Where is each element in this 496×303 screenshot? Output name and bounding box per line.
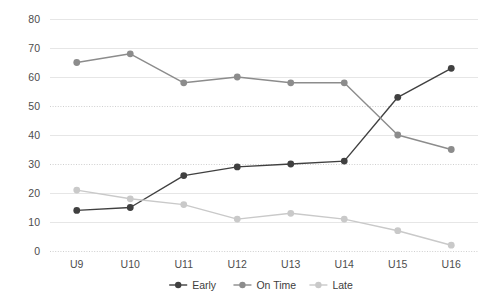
y-tick-label: 60: [28, 71, 40, 83]
x-tick-label: U12: [228, 258, 247, 270]
legend-item-late[interactable]: Late: [309, 279, 353, 291]
series-on-time: [73, 50, 454, 153]
legend-label: Late: [332, 279, 353, 291]
series-late: [73, 187, 454, 249]
y-tick-label: 70: [28, 42, 40, 54]
y-axis-labels: 01020304050607080: [28, 13, 40, 257]
data-point[interactable]: [448, 146, 455, 153]
x-tick-label: U13: [281, 258, 300, 270]
series-line: [77, 68, 452, 210]
x-tick-label: U11: [175, 258, 194, 270]
y-tick-label: 30: [28, 158, 40, 170]
data-point[interactable]: [341, 79, 348, 86]
x-tick-label: U15: [388, 258, 407, 270]
data-point[interactable]: [73, 187, 80, 194]
data-point[interactable]: [287, 161, 294, 168]
y-tick-label: 80: [28, 13, 40, 25]
x-tick-label: U14: [335, 258, 354, 270]
legend-marker-icon: [315, 282, 321, 288]
data-point[interactable]: [394, 227, 401, 234]
data-point[interactable]: [448, 242, 455, 249]
series-early: [73, 65, 454, 214]
y-tick-label: 0: [34, 245, 40, 257]
y-tick-label: 20: [28, 187, 40, 199]
data-point[interactable]: [394, 132, 401, 139]
y-tick-label: 50: [28, 100, 40, 112]
chart-canvas: 01020304050607080U9U10U11U12U13U14U15U16…: [0, 0, 496, 303]
legend-label: On Time: [256, 279, 296, 291]
data-point[interactable]: [287, 79, 294, 86]
x-axis-labels: U9U10U11U12U13U14U15U16: [70, 258, 461, 270]
data-point[interactable]: [448, 65, 455, 72]
data-point[interactable]: [180, 79, 187, 86]
data-point[interactable]: [234, 164, 241, 171]
data-point[interactable]: [180, 172, 187, 179]
x-tick-label: U16: [442, 258, 461, 270]
series-group: [73, 50, 454, 248]
y-tick-label: 40: [28, 129, 40, 141]
data-point[interactable]: [180, 201, 187, 208]
data-point[interactable]: [234, 74, 241, 81]
data-point[interactable]: [127, 195, 134, 202]
legend-item-on-time[interactable]: On Time: [233, 279, 296, 291]
data-point[interactable]: [341, 158, 348, 165]
data-point[interactable]: [73, 59, 80, 66]
data-point[interactable]: [287, 210, 294, 217]
x-tick-label: U9: [70, 258, 84, 270]
legend-marker-icon: [175, 282, 181, 288]
legend-label: Early: [192, 279, 217, 291]
data-point[interactable]: [127, 50, 134, 57]
legend-item-early[interactable]: Early: [169, 279, 217, 291]
x-tick-label: U10: [121, 258, 140, 270]
data-point[interactable]: [73, 207, 80, 214]
legend-marker-icon: [239, 282, 245, 288]
y-tick-label: 10: [28, 216, 40, 228]
legend: EarlyOn TimeLate: [169, 279, 353, 291]
data-point[interactable]: [394, 94, 401, 101]
line-chart: 01020304050607080U9U10U11U12U13U14U15U16…: [0, 0, 496, 303]
data-point[interactable]: [127, 204, 134, 211]
data-point[interactable]: [341, 216, 348, 223]
data-point[interactable]: [234, 216, 241, 223]
